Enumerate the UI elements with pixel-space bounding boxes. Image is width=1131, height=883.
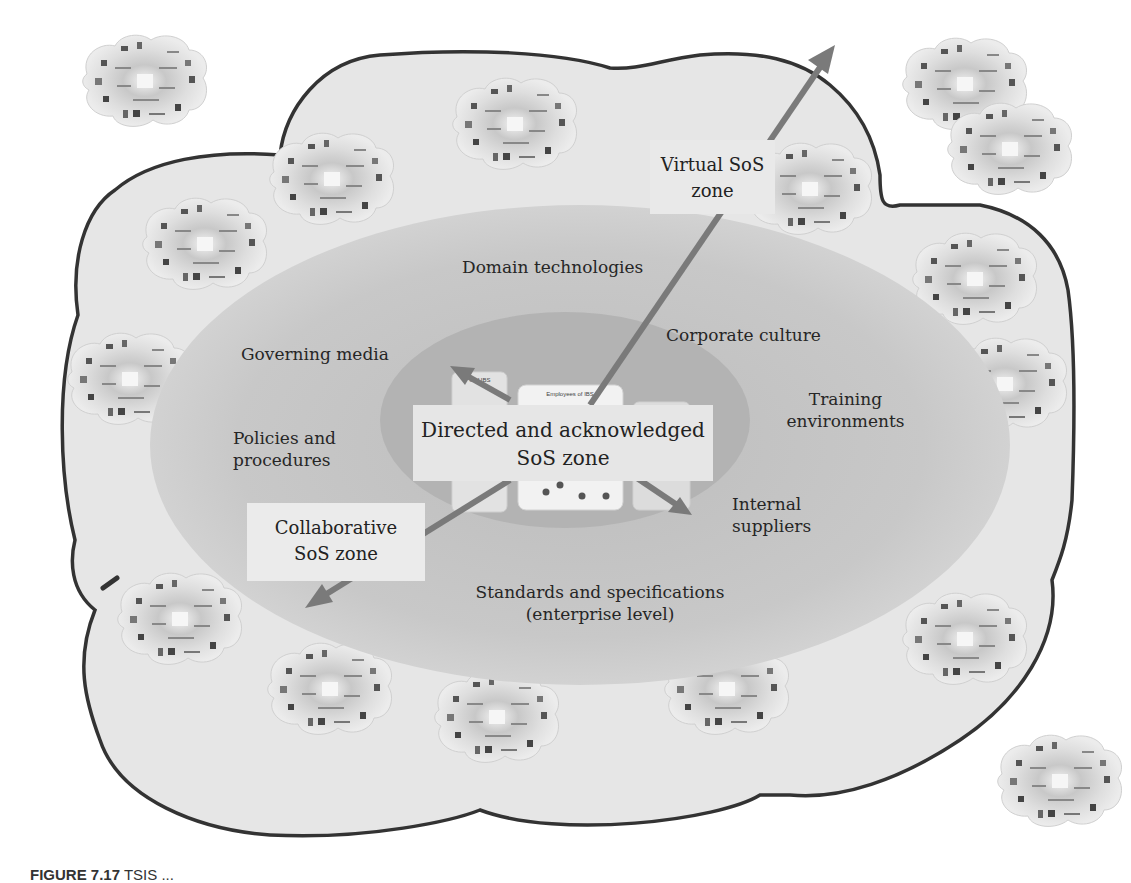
mini-cloud (118, 573, 242, 664)
policies-line1: Policies and (233, 427, 336, 449)
label-domain-technologies: Domain technologies (462, 256, 643, 278)
collaborative-zone-line1: Collaborative (247, 515, 425, 541)
figure-caption: FIGURE 7.17 TSIS ... (30, 866, 174, 883)
label-training-environments: Training environments (778, 388, 913, 432)
virtual-zone-line2: zone (650, 178, 775, 204)
directed-sos-zone-box: Directed and acknowledged SoS zone (413, 405, 713, 481)
caption-prefix: FIGURE 7.17 (30, 866, 120, 883)
label-policies-procedures: Policies and procedures (233, 427, 336, 471)
internal-line2: suppliers (732, 515, 811, 537)
virtual-zone-line1: Virtual SoS (650, 152, 775, 178)
mini-cloud (268, 643, 392, 734)
training-line1: Training (778, 388, 913, 410)
mini-cloud (948, 103, 1072, 194)
mini-cloud (83, 35, 207, 126)
collaborative-zone-line2: SoS zone (247, 541, 425, 567)
mini-cloud (435, 671, 559, 762)
virtual-sos-zone-box: Virtual SoS zone (650, 140, 775, 214)
label-standards-specifications: Standards and specifications (enterprise… (455, 581, 745, 625)
mini-cloud (998, 735, 1122, 826)
internal-line1: Internal (732, 493, 811, 515)
label-governing-media: Governing media (241, 343, 389, 365)
label-internal-suppliers: Internal suppliers (732, 493, 811, 537)
caption-text: TSIS ... (124, 866, 174, 883)
directed-zone-line1: Directed and acknowledged (413, 416, 713, 444)
mini-cloud (903, 593, 1027, 684)
directed-zone-line2: SoS zone (413, 444, 713, 472)
label-corporate-culture: Corporate culture (666, 324, 821, 346)
standards-line2: (enterprise level) (455, 603, 745, 625)
standards-line1: Standards and specifications (455, 581, 745, 603)
policies-line2: procedures (233, 449, 336, 471)
mini-cloud (270, 133, 394, 224)
mini-cloud (453, 78, 577, 169)
mini-cloud (143, 198, 267, 289)
svg-text:Employees of IBS: Employees of IBS (546, 391, 594, 397)
collaborative-sos-zone-box: Collaborative SoS zone (247, 503, 425, 581)
training-line2: environments (778, 410, 913, 432)
